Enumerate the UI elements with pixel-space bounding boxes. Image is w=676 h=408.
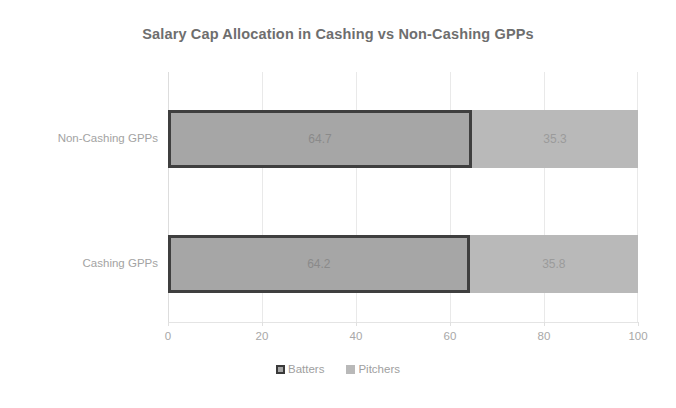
x-axis-tick-label-80: 80 — [524, 330, 564, 342]
bar-segment-batters[interactable]: 64.7 — [168, 110, 472, 168]
legend-item-batters[interactable]: Batters — [276, 364, 324, 376]
x-axis-tick-label-0: 0 — [148, 330, 188, 342]
legend-label: Batters — [288, 364, 324, 376]
legend-swatch-icon — [276, 365, 285, 374]
chart-title: Salary Cap Allocation in Cashing vs Non-… — [0, 26, 676, 42]
x-axis-tick-label-40: 40 — [336, 330, 376, 342]
x-axis-tick-label-60: 60 — [430, 330, 470, 342]
chart-legend: Batters Pitchers — [0, 364, 676, 376]
x-axis-tick-40 — [356, 322, 357, 326]
plot-area: 64.7 35.3 64.2 35.8 — [168, 72, 638, 322]
x-axis-tick-60 — [450, 322, 451, 326]
x-axis-tick-label-100: 100 — [618, 330, 658, 342]
y-axis-category-label-cashing-gpps: Cashing GPPs — [10, 257, 158, 269]
legend-label: Pitchers — [358, 364, 400, 376]
bar-value-label: 35.8 — [542, 258, 565, 270]
x-axis-tick-0 — [168, 322, 169, 326]
bar-row: 64.2 35.8 — [168, 235, 638, 293]
x-axis-tick-80 — [544, 322, 545, 326]
y-axis-category-label-non-cashing-gpps: Non-Cashing GPPs — [10, 132, 158, 144]
bar-row: 64.7 35.3 — [168, 110, 638, 168]
bar-value-label: 64.7 — [308, 133, 331, 145]
x-axis-tick-label-20: 20 — [242, 330, 282, 342]
legend-item-pitchers[interactable]: Pitchers — [346, 364, 400, 376]
x-axis-tick-100 — [638, 322, 639, 326]
bar-segment-pitchers[interactable]: 35.3 — [472, 110, 638, 168]
chart-container: Salary Cap Allocation in Cashing vs Non-… — [0, 0, 676, 408]
x-axis-tick-20 — [262, 322, 263, 326]
bar-segment-batters[interactable]: 64.2 — [168, 235, 470, 293]
bar-value-label: 64.2 — [307, 258, 330, 270]
bar-value-label: 35.3 — [543, 133, 566, 145]
x-axis-line — [168, 322, 639, 323]
bar-segment-pitchers[interactable]: 35.8 — [470, 235, 638, 293]
legend-swatch-icon — [346, 365, 355, 374]
